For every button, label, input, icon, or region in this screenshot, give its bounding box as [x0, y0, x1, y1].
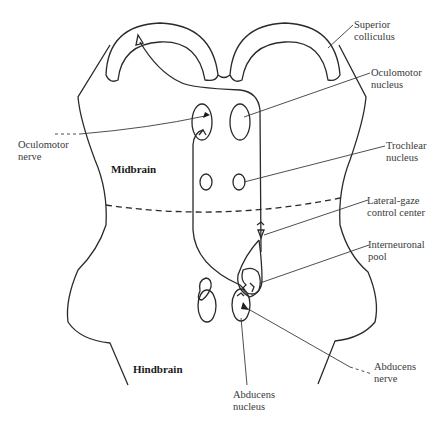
label-abducens-nerve: Abducens nerve [374, 361, 419, 384]
label-trochlear-nucleus: Trochlear nucleus [386, 140, 429, 163]
brainstem-outline-left [67, 45, 128, 385]
leader-lateral-gaze [264, 200, 368, 235]
label-oculomotor-nucleus: Oculomotor nucleus [371, 67, 424, 90]
label-oculomotor-nerve: Oculomotor nerve [18, 139, 71, 162]
abducens-nerve-line [243, 306, 350, 367]
region-hindbrain: Hindbrain [133, 363, 183, 375]
oculomotor-nucleus-right [230, 104, 250, 140]
mlf-pathway [193, 130, 245, 290]
oculomotor-nerve-line [80, 116, 205, 134]
oculomotor-nerve-arrow [203, 112, 210, 118]
trochlear-nucleus-left [200, 174, 212, 190]
label-interneuronal-pool: Interneuronal pool [368, 239, 427, 262]
oculomotor-nucleus-left [192, 104, 212, 140]
abducens-nerve-dash [350, 367, 372, 374]
midbrain-hindbrain-boundary [106, 198, 340, 212]
trochlear-nucleus-right [233, 174, 245, 190]
superior-colliculus-right [230, 23, 340, 81]
superior-colliculus-left [106, 23, 218, 81]
leader-superior-colliculus [328, 25, 353, 48]
abducens-fork [237, 293, 244, 296]
leader-abducens-nucleus [241, 318, 247, 385]
label-lateral-gaze-center: Lateral-gaze control center [367, 195, 426, 218]
collicular-notch [218, 75, 230, 78]
leader-interneuronal-pool [260, 245, 369, 283]
leader-trochlear-nucleus [244, 146, 385, 182]
pool-fork [250, 283, 254, 292]
leader-oculomotor-nucleus [244, 73, 370, 117]
label-abducens-nucleus: Abducens nucleus [233, 389, 278, 412]
arrowhead-colliculus [136, 35, 143, 45]
label-superior-colliculus: Superior colliculus [354, 19, 395, 42]
brainstem-diagram: Superior colliculus Oculomotor nucleus O… [0, 0, 444, 432]
region-midbrain: Midbrain [111, 163, 156, 175]
